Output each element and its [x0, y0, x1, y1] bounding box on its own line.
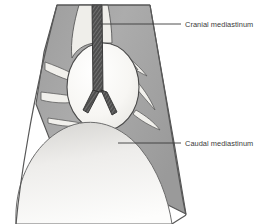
- label-cranial-mediastinum: Cranial mediastinum: [185, 20, 253, 29]
- anatomy-illustration: Cranial mediastinum Caudal mediastinum: [0, 0, 267, 224]
- trachea: [92, 5, 103, 92]
- thorax-outline-caudal-tip: [172, 215, 186, 224]
- label-caudal-mediastinum: Caudal mediastinum: [185, 139, 253, 148]
- mediastinum-figure: Cranial mediastinum Caudal mediastinum: [0, 0, 267, 224]
